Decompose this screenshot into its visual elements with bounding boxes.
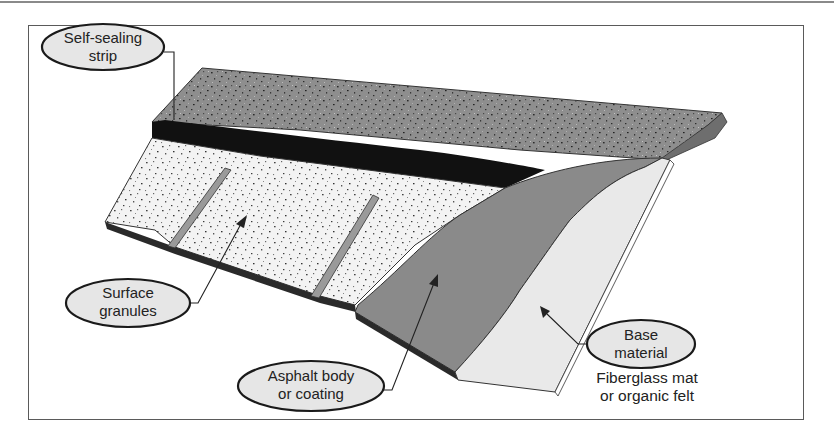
- label-base-material-line2: material: [614, 344, 667, 361]
- label-self-sealing-line1: Self-sealing: [64, 29, 142, 46]
- label-asphalt-body-line2: or coating: [278, 385, 344, 402]
- label-self-sealing-strip: Self-sealing strip: [42, 24, 164, 70]
- label-asphalt-body: Asphalt body or coating: [238, 361, 384, 411]
- label-base-material-line1: Base: [624, 326, 658, 343]
- label-surface-granules-line2: granules: [99, 302, 157, 319]
- base-material-note-line2: or organic felt: [600, 387, 695, 404]
- label-self-sealing-line2: strip: [89, 47, 117, 64]
- shingle-diagram: Self-sealing strip Surface granules Asph…: [0, 0, 834, 442]
- label-base-material: Base material Fiberglass mat or organic …: [587, 320, 699, 404]
- label-surface-granules-line1: Surface: [102, 284, 154, 301]
- label-asphalt-body-line1: Asphalt body: [268, 367, 355, 384]
- label-surface-granules: Surface granules: [66, 279, 190, 327]
- base-material-note-line1: Fiberglass mat: [596, 369, 698, 386]
